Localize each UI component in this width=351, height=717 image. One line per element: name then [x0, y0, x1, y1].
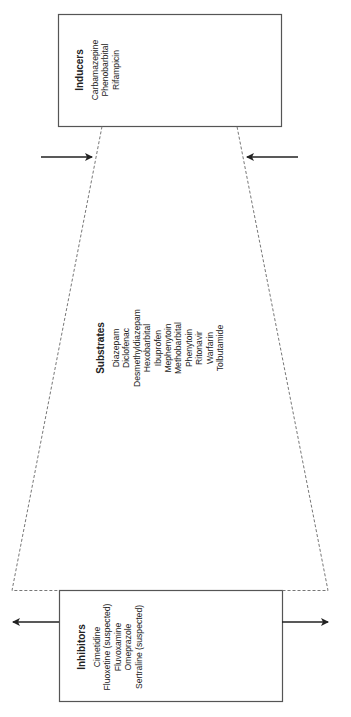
inhibitors-label-group: Inhibitors Cimetidine Fluoxetine (suspec…: [75, 604, 144, 691]
substrate-item: Phenytoin: [184, 309, 194, 387]
inhibitor-item: Sertraline (suspected): [134, 604, 144, 691]
inducer-item: Rifampicin: [111, 40, 121, 101]
inhibitor-item: Fluoxetine (suspected): [103, 604, 113, 691]
substrate-item: Mephenytoin: [163, 309, 173, 387]
substrate-item: Desmethyldiazepam: [132, 309, 142, 387]
substrate-item: Tolbutamide: [215, 309, 225, 387]
substrate-item: Warfarin: [205, 309, 215, 387]
substrate-item: Diazepam: [111, 309, 121, 387]
substrate-item: Ritonavir: [195, 309, 205, 387]
inhibitor-item: Cimetidine: [92, 604, 102, 691]
inducers-title: Inducers: [73, 40, 86, 101]
inhibitor-item: Fluvoxamine: [113, 604, 123, 691]
substrate-item: Ibuprofen: [153, 309, 163, 387]
substrates-title: Substrates: [94, 309, 107, 387]
inhibitor-item: Omeprazole: [124, 604, 134, 691]
inhibitors-title: Inhibitors: [75, 604, 88, 691]
substrates-label-group: Substrates Diazepam Diclofenac Desmethyl…: [94, 309, 225, 387]
substrate-item: Hexobarbital: [142, 309, 152, 387]
substrate-item: Diclofenac: [122, 309, 132, 387]
inducers-label-group: Inducers Carbamazepine Phenobarbital Rif…: [73, 40, 121, 101]
inducer-item: Carbamazepine: [90, 40, 100, 101]
inducer-item: Phenobarbital: [100, 40, 110, 101]
substrate-item: Methobarbital: [174, 309, 184, 387]
